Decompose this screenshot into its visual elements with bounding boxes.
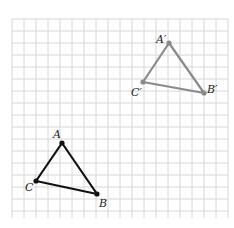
vertex-b-prime <box>201 90 206 95</box>
vertex-label-b: B <box>98 197 107 210</box>
vertex-label-a: A <box>52 128 61 141</box>
triangle-abc: ABC <box>25 128 107 210</box>
coordinate-grid <box>12 19 228 218</box>
vertex-c-prime <box>140 79 145 84</box>
vertex-label-a-prime: A′ <box>155 33 167 46</box>
vertex-a-prime <box>166 40 171 45</box>
vertex-b <box>94 191 99 196</box>
triangle-prime-edges <box>143 43 204 93</box>
vertex-label-c-prime: C′ <box>131 86 142 99</box>
translation-diagram: ABC A′B′C′ <box>0 0 234 228</box>
vertex-label-b-prime: B′ <box>206 83 218 96</box>
vertex-a <box>59 140 64 145</box>
vertex-label-c: C <box>25 181 34 194</box>
vertex-c <box>33 178 38 183</box>
